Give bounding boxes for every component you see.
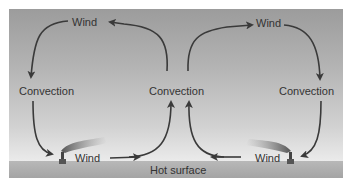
arrow-bottom-left-entry xyxy=(33,101,52,154)
label-wind-top-right: Wind xyxy=(256,17,281,29)
label-convection-center: Convection xyxy=(149,85,204,97)
label-convection-left: Convection xyxy=(19,85,74,97)
arrow-bottom-right-entry xyxy=(302,101,321,156)
label-wind-bottom-left: Wind xyxy=(75,152,100,164)
label-hot-surface: Hot surface xyxy=(150,164,206,176)
label-wind-bottom-right: Wind xyxy=(255,152,280,164)
arrow-down-right xyxy=(284,25,320,79)
arrow-up-center-left xyxy=(129,102,171,157)
label-convection-right: Convection xyxy=(279,85,334,97)
arrow-up-center-right-top xyxy=(188,25,252,71)
arrow-top-left-wind xyxy=(110,22,167,71)
arrow-down-left xyxy=(31,21,68,77)
label-wind-top-left: Wind xyxy=(72,16,97,28)
arrow-up-center-right xyxy=(189,102,224,157)
convection-diagram: Wind Wind Convection Convection Convecti… xyxy=(9,9,343,178)
